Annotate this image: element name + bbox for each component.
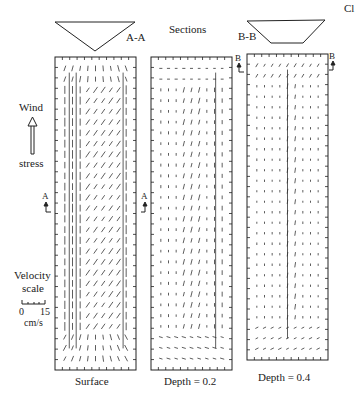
- scale-units-label: cm/s: [24, 318, 43, 328]
- caption-depth-0-4: Depth = 0.4: [258, 372, 310, 383]
- scale-label: scale: [22, 283, 44, 294]
- wind-arrow-icon: [28, 117, 37, 154]
- corner-label: Cl: [344, 3, 354, 14]
- section-marker-a-right-label: A: [141, 192, 148, 201]
- panels-layer: [55, 54, 328, 370]
- velocity-vectors: [63, 66, 127, 362]
- section-b-b-shape: [247, 20, 325, 43]
- vector-panel-surface: [55, 57, 136, 370]
- section-marker-a-left-icon: [44, 202, 51, 212]
- section-marker-b-left-icon: [237, 63, 244, 72]
- section-a-a-label: A-A: [126, 32, 146, 43]
- velocity-vectors: [159, 68, 223, 359]
- velocity-label: Velocity: [14, 270, 51, 281]
- vector-panel-depth02: [151, 57, 232, 370]
- section-marker-b-right-label: B: [329, 52, 335, 61]
- section-marker-b-left-label: B: [235, 54, 241, 63]
- vector-panel-depth04: [247, 54, 328, 360]
- section-b-b-label: B-B: [238, 31, 256, 42]
- caption-surface: Surface: [75, 376, 109, 387]
- scale-min-label: 0: [19, 307, 24, 317]
- wind-label: Wind: [19, 102, 43, 113]
- velocity-scale-bar: [22, 300, 45, 304]
- section-marker-a-left-label: A: [42, 192, 49, 201]
- section-marker-b-right-icon: [329, 61, 335, 70]
- scale-max-label: 15: [40, 307, 50, 317]
- sections-title: Sections: [169, 24, 206, 35]
- figure-canvas: [0, 0, 355, 394]
- caption-depth-0-2: Depth = 0.2: [164, 376, 216, 387]
- section-marker-a-right-icon: [141, 202, 147, 212]
- section-a-a-shape: [55, 22, 135, 51]
- stress-label: stress: [19, 158, 43, 169]
- velocity-vectors: [255, 64, 319, 350]
